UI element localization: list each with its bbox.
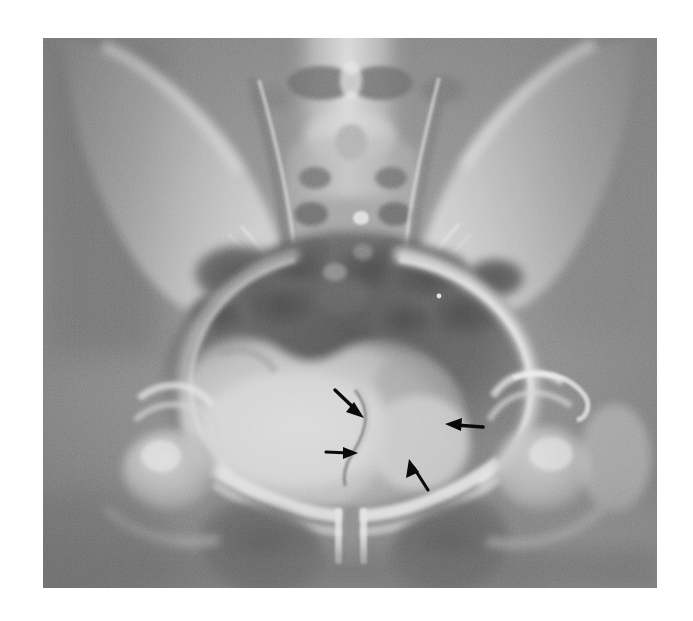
radiograph-plate: [43, 38, 657, 588]
page-root: AP pelvis radiograph: [0, 0, 693, 621]
film-speck: [437, 294, 442, 299]
radiograph-image: [43, 38, 657, 588]
perineal-shadow: [43, 550, 657, 588]
